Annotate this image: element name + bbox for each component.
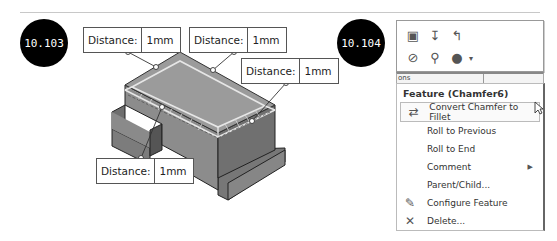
distance-value[interactable]: 1mm [142, 28, 179, 52]
distance-label: Distance: [242, 59, 300, 83]
convert-icon: ⇄ [403, 103, 424, 121]
rollback-icon[interactable]: ↧ [427, 27, 443, 43]
distance-callout-2[interactable]: Distance: 1mm [189, 27, 287, 53]
menu-title: Feature (Chamfer6) [403, 88, 508, 99]
distance-callout-4[interactable]: Distance: 1mm [96, 158, 194, 184]
chevron-down-icon[interactable]: ▾ [463, 50, 479, 66]
distance-label: Distance: [84, 28, 142, 52]
configure-icon: ✎ [399, 194, 421, 212]
figure-badge-10-104: 10.104 [337, 19, 385, 67]
context-toolbar: ▣ ↧ ↰ ⊘ ⚲ ● ▾ [396, 20, 544, 72]
strip-text: ons [397, 74, 410, 82]
menu-item-label: Configure Feature [427, 198, 508, 208]
distance-label: Distance: [190, 28, 248, 52]
blank-icon [399, 176, 421, 194]
submenu-arrow-icon: ▶ [528, 163, 533, 171]
hide-icon[interactable]: ⊘ [405, 49, 421, 65]
zoom-to-selection-icon[interactable]: ⚲ [427, 49, 443, 65]
menu-item-label: Roll to Previous [427, 126, 496, 136]
menu-item-label: Comment [427, 162, 471, 172]
blank-icon [399, 140, 421, 158]
menu-item-convert-chamfer-to-fillet[interactable]: ⇄ Convert Chamfer to Fillet [400, 102, 540, 122]
menu-item-parent-child[interactable]: Parent/Child... [397, 176, 543, 194]
menu-item-comment[interactable]: Comment ▶ [397, 158, 543, 176]
menu-item-configure-feature[interactable]: ✎ Configure Feature [397, 194, 543, 212]
menu-item-label: Convert Chamfer to Fillet [429, 102, 539, 122]
distance-value[interactable]: 1mm [300, 59, 337, 83]
mouse-cursor-icon [534, 101, 544, 115]
distance-value[interactable]: 1mm [248, 28, 285, 52]
distance-value[interactable]: 1mm [155, 159, 192, 183]
blank-icon [399, 122, 421, 140]
undo-icon[interactable]: ↰ [449, 27, 465, 43]
menu-item-label: Roll to End [427, 144, 475, 154]
blank-icon [399, 158, 421, 176]
context-menu: Feature (Chamfer6) ⇄ Convert Chamfer to … [396, 83, 545, 231]
menu-item-roll-to-previous[interactable]: Roll to Previous [397, 122, 543, 140]
distance-label: Distance: [97, 159, 155, 183]
figure-number: 10.104 [341, 37, 381, 50]
delete-icon: ✕ [399, 212, 421, 230]
menu-item-roll-to-end[interactable]: Roll to End [397, 140, 543, 158]
menu-item-delete[interactable]: ✕ Delete... [397, 212, 543, 230]
strip-divider [483, 74, 484, 83]
edit-feature-icon[interactable]: ▣ [405, 27, 421, 43]
menu-item-label: Parent/Child... [427, 180, 490, 190]
distance-callout-3[interactable]: Distance: 1mm [241, 58, 339, 84]
distance-callout-1[interactable]: Distance: 1mm [83, 27, 181, 53]
menu-item-label: Delete... [427, 216, 465, 226]
